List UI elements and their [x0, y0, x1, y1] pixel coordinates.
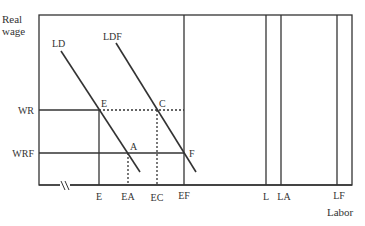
wrf-label: WRF [12, 148, 34, 159]
x-tick-lf: LF [333, 190, 345, 201]
y-axis-title-line2: wage [2, 25, 25, 37]
ld-label: LD [52, 38, 65, 49]
wr-label: WR [18, 105, 34, 116]
x-axis-title: Labor [327, 206, 354, 218]
x-tick-la: LA [277, 191, 291, 202]
ld-curve [61, 51, 140, 172]
point-a-label: A [130, 141, 138, 152]
ldf-label: LDF [103, 31, 122, 42]
x-tick-ea: EA [121, 191, 135, 202]
x-tick-e: E [96, 191, 102, 202]
y-axis-title-line1: Real [2, 13, 22, 25]
point-c-label: C [159, 98, 166, 109]
point-f-label: F [189, 148, 195, 159]
x-tick-ef: EF [178, 190, 190, 201]
labor-market-diagram: Real wage Labor LD LDF WR WRF E C A F E … [0, 0, 365, 226]
axis-break-icon [60, 180, 70, 190]
x-tick-ec: EC [151, 192, 164, 203]
x-tick-l: L [263, 191, 269, 202]
point-e-label: E [101, 98, 107, 109]
plot-frame [39, 15, 352, 185]
